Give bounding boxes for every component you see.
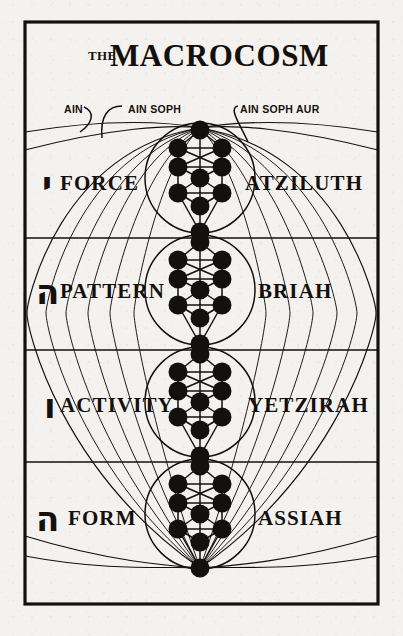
sephirah-chokmah — [213, 475, 232, 494]
tree-of-life-yetzirah — [169, 345, 232, 466]
hebrew-letter-yod: י — [42, 164, 52, 204]
sephirah-geburah — [169, 270, 188, 289]
sephirah-chokmah — [213, 251, 232, 270]
sephirah-hod — [169, 520, 188, 539]
hebrew-letter-heh: ה — [36, 272, 59, 312]
sephirah-kether — [191, 233, 210, 252]
sephirah-netzach — [213, 408, 232, 427]
sephirah-geburah — [169, 158, 188, 177]
plate-canvas: THE MACROCOSM — [0, 0, 403, 636]
world-name-atziluth: ATZILUTH — [245, 171, 363, 195]
flare-bottom-right-2 — [200, 536, 378, 568]
sephirah-hod — [169, 184, 188, 203]
sephirah-netzach — [213, 296, 232, 315]
macrocosm-diagram: THE MACROCOSM — [0, 0, 403, 636]
sephirah-kether — [191, 345, 210, 364]
sephirah-kether — [191, 121, 210, 140]
sephirah-binah — [169, 251, 188, 270]
world-quality-activity: ACTIVITY — [60, 393, 174, 417]
world-quality-form: FORM — [68, 506, 137, 530]
hebrew-letter-vav: ו — [44, 386, 56, 426]
sephirah-yesod — [191, 533, 210, 552]
world-name-yetzirah: YETZIRAH — [248, 393, 369, 417]
world-quality-pattern: PATTERN — [60, 279, 165, 303]
tree-of-life-atziluth — [169, 121, 232, 242]
veil-label-ain-soph-aur: AIN SOPH AUR — [240, 103, 320, 115]
sephirah-yesod — [191, 421, 210, 440]
sephirah-tiphareth — [191, 281, 210, 300]
flare-bottom-left-2 — [25, 536, 200, 568]
page-title: MACROCOSM — [110, 38, 329, 73]
sephirah-chesed — [213, 270, 232, 289]
sephirah-yesod — [191, 197, 210, 216]
sephirah-malkuth — [191, 559, 210, 578]
sephirah-tiphareth — [191, 505, 210, 524]
sephirah-kether — [191, 457, 210, 476]
veil-label-ain: AIN — [64, 103, 83, 115]
sephirah-chesed — [213, 494, 232, 513]
world-name-briah: BRIAH — [258, 279, 332, 303]
sephirah-netzach — [213, 184, 232, 203]
sephirah-hod — [169, 296, 188, 315]
sephirah-netzach — [213, 520, 232, 539]
sephirah-binah — [169, 139, 188, 158]
sephirah-binah — [169, 363, 188, 382]
tree-of-life-briah — [169, 233, 232, 354]
sephirah-chesed — [213, 158, 232, 177]
veil-label-ain-soph: AIN SOPH — [128, 103, 181, 115]
sephirah-chokmah — [213, 139, 232, 158]
sephirah-geburah — [169, 494, 188, 513]
sephirah-chesed — [213, 382, 232, 401]
sephirah-yesod — [191, 309, 210, 328]
sephirah-tiphareth — [191, 169, 210, 188]
hebrew-letter-heh-final: ה — [36, 499, 59, 539]
tree-of-life-assiah — [169, 457, 232, 578]
sephirah-chokmah — [213, 363, 232, 382]
world-name-assiah: ASSIAH — [258, 506, 343, 530]
flare-top-left-1 — [25, 123, 200, 133]
sephirah-tiphareth — [191, 393, 210, 412]
sephirah-binah — [169, 475, 188, 494]
world-quality-force: FORCE — [60, 171, 139, 195]
